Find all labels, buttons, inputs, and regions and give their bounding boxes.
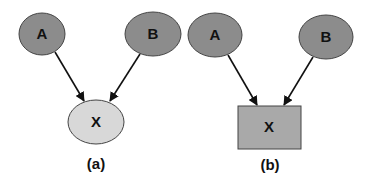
diagram-canvas: A B X (a) A B X (b) <box>0 0 369 184</box>
node-x-ellipse: X <box>68 100 124 144</box>
caption-b: (b) <box>260 156 279 173</box>
node-x-rectangle: X <box>238 106 301 149</box>
node-b: B <box>299 15 353 59</box>
edge-b-to-x <box>284 57 313 105</box>
node-b: B <box>125 12 181 56</box>
panel-a: A B X (a) <box>19 12 181 172</box>
node-a: A <box>19 13 65 55</box>
node-x-label: X <box>91 113 101 130</box>
edge-b-to-x <box>110 54 140 101</box>
edge-a-to-x <box>228 55 257 105</box>
caption-a: (a) <box>87 155 105 172</box>
edge-a-to-x <box>55 52 84 101</box>
panel-b: A B X (b) <box>188 13 353 173</box>
node-a: A <box>188 13 242 57</box>
node-b-label: B <box>148 25 159 42</box>
node-x-label: X <box>264 118 274 135</box>
node-a-label: A <box>210 26 221 43</box>
node-b-label: B <box>321 28 332 45</box>
node-a-label: A <box>37 25 48 42</box>
